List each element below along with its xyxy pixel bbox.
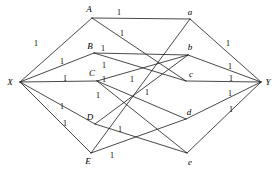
graph-edge-label-e-Y: 1 [229,106,233,114]
graph-edges-layer [0,0,279,172]
graph-node-label-B: B [87,42,93,51]
graph-edge-d-Y [186,82,261,119]
graph-edge-label-b-Y: 1 [228,63,232,71]
graph-edge-label-C-e: 1 [96,92,100,100]
graph-edge-E-a [91,19,190,153]
graph-edge-label-A-c: 1 [120,30,124,38]
graph-edge-label-c-Y: 1 [229,75,233,83]
graph-edge-A-a [92,18,190,19]
graph-node-label-Y: Y [265,78,270,87]
graph-edge-label-B-c: 1 [102,62,106,70]
graph-edge-X-C [20,81,97,82]
graph-edge-C-d [97,81,186,119]
graph-edge-label-E-a: 1 [110,152,114,160]
graph-node-label-e: e [188,158,192,167]
graph-edge-e-Y [187,82,261,153]
graph-edge-label-X-E: 1 [63,120,67,128]
graph-edge-label-d-Y: 1 [228,90,232,98]
graph-edge-b-Y [188,55,261,82]
graph-edge-a-Y [190,19,261,82]
graph-edge-X-B [20,53,94,82]
graph-edge-C-e [97,81,187,153]
graph-node-label-X: X [7,78,13,87]
graph-edge-label-X-B: 1 [60,58,64,66]
graph-edge-label-D-b: 1 [145,89,149,97]
graph-node-label-A: A [86,5,92,14]
graph-edge-label-a-Y: 1 [226,40,230,48]
graph-edge-A-c [92,18,186,81]
graph-node-label-d: d [187,108,192,117]
graph-node-label-b: b [188,43,193,52]
graph-edge-label-C-d: 1 [130,76,134,84]
figure-canvas: XABCDEabcdeY 11111111111111111111 [0,0,279,172]
graph-edge-label-X-D: 1 [60,103,64,111]
graph-edge-label-C-b: 1 [102,76,106,84]
graph-edge-label-X-A: 1 [34,40,38,48]
graph-node-label-c: c [189,70,193,79]
graph-node-label-a: a [188,8,193,17]
graph-node-label-D: D [87,113,94,122]
graph-edge-X-A [20,18,92,82]
graph-edge-label-A-a: 1 [117,9,121,17]
graph-edge-c-Y [186,81,261,82]
graph-edge-B-b [94,53,188,55]
graph-node-label-C: C [89,69,95,78]
graph-edge-label-D-e: 1 [118,126,122,134]
graph-edge-label-B-b: 1 [101,45,105,53]
graph-node-label-E: E [85,157,91,166]
graph-edge-X-D [20,82,95,124]
graph-edge-X-E [20,82,91,153]
graph-edge-label-X-C: 1 [63,75,67,83]
